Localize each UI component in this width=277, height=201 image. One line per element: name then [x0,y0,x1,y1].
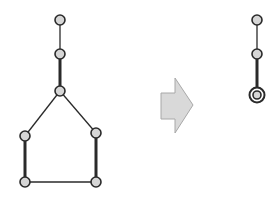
transform-arrow-icon [161,78,193,133]
after-node-b [252,49,262,59]
before-node-e [91,128,101,138]
before-node-g [91,177,101,187]
after-graph [250,15,265,103]
before-node-b [55,49,65,59]
after-node-a [252,15,262,25]
before-node-a [55,15,65,25]
before-node-f [20,177,30,187]
before-edge-c-d [25,91,60,136]
before-edge-c-e [60,91,96,133]
after-contracted-node-c [253,91,261,99]
before-node-c [55,86,65,96]
before-node-d [20,131,30,141]
before-graph [20,15,101,187]
graph-contraction-diagram [0,0,277,201]
